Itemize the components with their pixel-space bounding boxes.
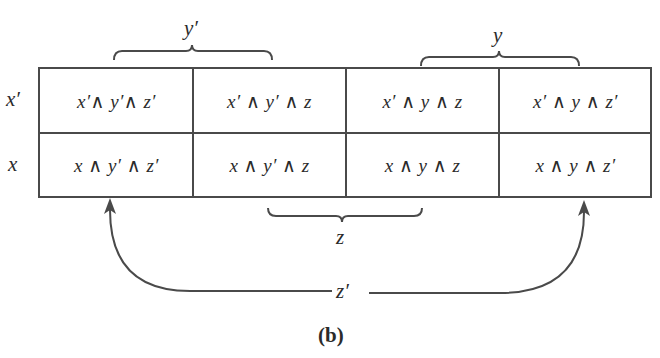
cell-x-y-z-prime: x ∧ y ∧ z′ [499, 134, 652, 196]
y-brace [421, 51, 579, 66]
z-group-label: z [336, 227, 344, 248]
cell-x-y-prime-z-prime: x ∧ y′ ∧ z′ [40, 134, 193, 196]
cell-x-prime-y-prime-z: x′ ∧ y′ ∧ z [193, 69, 346, 133]
figure-caption: (b) [318, 323, 344, 348]
row-label-x-prime: x′ [6, 89, 20, 110]
row-label-x: x [8, 154, 17, 175]
y-prime-group-label: y′ [184, 18, 198, 39]
z-brace [268, 208, 422, 222]
karnaugh-map: x′∧ y′∧ z′ x′ ∧ y′ ∧ z x′ ∧ y ∧ z x′ ∧ y… [38, 67, 652, 198]
cell-x-y-prime-z: x ∧ y′ ∧ z [193, 134, 346, 196]
cell-x-prime-y-z-prime: x′ ∧ y ∧ z′ [499, 69, 652, 133]
cell-x-prime-y-prime-z-prime: x′∧ y′∧ z′ [40, 69, 193, 133]
z-prime-group-label: z′ [336, 281, 349, 302]
z-prime-left-arrow [110, 210, 332, 291]
y-prime-brace [114, 45, 272, 60]
y-group-label: y [493, 25, 502, 46]
cell-x-prime-y-z: x′ ∧ y ∧ z [346, 69, 499, 133]
z-prime-right-arrow [369, 212, 584, 293]
cell-x-y-z: x ∧ y ∧ z [346, 134, 499, 196]
